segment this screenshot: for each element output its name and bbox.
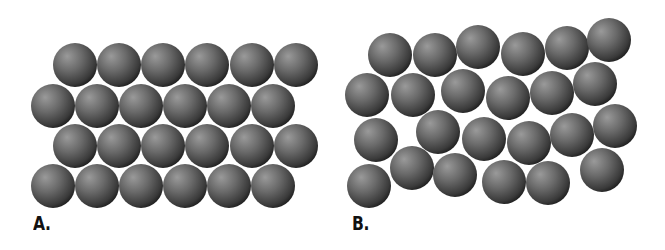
panel-a-label: A. bbox=[33, 214, 50, 233]
sphere-particle bbox=[507, 121, 551, 165]
sphere-particle bbox=[580, 148, 624, 192]
sphere-particle bbox=[75, 164, 119, 208]
sphere-particle bbox=[274, 124, 318, 168]
sphere-particle bbox=[75, 84, 119, 128]
panel-b-disordered-spheres bbox=[345, 18, 637, 208]
sphere-particle bbox=[163, 84, 207, 128]
sphere-particle bbox=[185, 124, 229, 168]
sphere-particle bbox=[501, 32, 545, 76]
sphere-particle bbox=[119, 164, 163, 208]
sphere-particle bbox=[368, 33, 412, 77]
sphere-particle bbox=[456, 25, 500, 69]
sphere-particle bbox=[354, 118, 398, 162]
sphere-particle bbox=[207, 84, 251, 128]
sphere-particle bbox=[230, 43, 274, 87]
sphere-particle bbox=[391, 73, 435, 117]
sphere-particle bbox=[345, 73, 389, 117]
sphere-particle bbox=[97, 124, 141, 168]
sphere-particle bbox=[207, 164, 251, 208]
sphere-particle bbox=[530, 71, 574, 115]
panel-a-ordered-spheres bbox=[31, 43, 318, 208]
sphere-particle bbox=[573, 62, 617, 106]
sphere-particle bbox=[441, 69, 485, 113]
sphere-particle bbox=[53, 124, 97, 168]
sphere-particle bbox=[251, 84, 295, 128]
sphere-particle bbox=[486, 76, 530, 120]
sphere-particle bbox=[545, 26, 589, 70]
sphere-particle bbox=[593, 104, 637, 148]
sphere-particle bbox=[230, 124, 274, 168]
sphere-particle bbox=[185, 43, 229, 87]
panel-b-label: B. bbox=[352, 214, 369, 233]
sphere-particle bbox=[587, 18, 631, 62]
sphere-particle bbox=[413, 33, 457, 77]
sphere-particle bbox=[53, 43, 97, 87]
sphere-particle bbox=[550, 113, 594, 157]
sphere-particle bbox=[462, 117, 506, 161]
sphere-particle bbox=[31, 164, 75, 208]
sphere-particle bbox=[141, 124, 185, 168]
sphere-particle bbox=[416, 110, 460, 154]
particle-diagram bbox=[0, 0, 665, 250]
sphere-particle bbox=[119, 84, 163, 128]
sphere-particle bbox=[390, 146, 434, 190]
sphere-particle bbox=[251, 164, 295, 208]
sphere-particle bbox=[482, 160, 526, 204]
sphere-particle bbox=[97, 43, 141, 87]
sphere-particle bbox=[347, 164, 391, 208]
sphere-particle bbox=[31, 84, 75, 128]
sphere-particle bbox=[433, 153, 477, 197]
sphere-particle bbox=[163, 164, 207, 208]
sphere-particle bbox=[141, 43, 185, 87]
sphere-particle bbox=[274, 43, 318, 87]
sphere-particle bbox=[526, 161, 570, 205]
